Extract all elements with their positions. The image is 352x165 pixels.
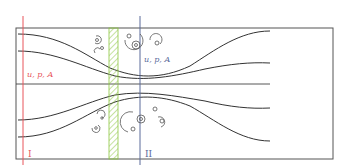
pipe-outline [16,28,333,159]
streamline-upper-outer [18,31,270,76]
eddies-lower [92,107,165,132]
streamline-lower-outer [18,97,270,141]
section-1-vars: u, p, A [27,70,53,79]
control-strip [109,28,118,159]
section-2-vars: u, p, A [144,55,170,64]
eddies-upper [94,34,162,53]
section-1-name: I [28,149,32,159]
section-2-name: II [145,149,152,159]
flow-diagram [0,0,352,165]
